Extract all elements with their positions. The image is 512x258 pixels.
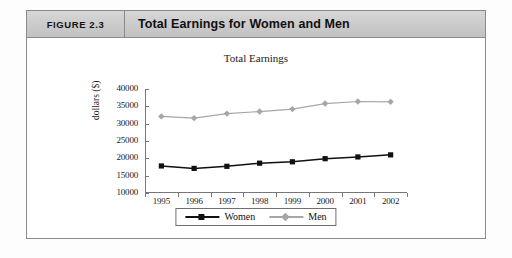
data-series-layer	[145, 89, 407, 193]
chart-legend: Women Men	[175, 208, 336, 226]
figure-header: FIGURE 2.3 Total Earnings for Women and …	[27, 11, 485, 38]
x-tick-mark	[276, 193, 277, 197]
plot-area: 10000150002000025000300003500040000 1995…	[145, 89, 407, 193]
y-tick-label: 15000	[116, 170, 138, 180]
data-point-men[interactable]	[355, 98, 361, 104]
x-tick-label: 1998	[251, 196, 268, 206]
figure-number-label: FIGURE 2.3	[27, 11, 125, 37]
x-tick-mark	[211, 193, 212, 197]
legend-label-women: Women	[224, 211, 255, 222]
figure-frame: FIGURE 2.3 Total Earnings for Women and …	[26, 10, 486, 239]
chart-title: Total Earnings	[27, 52, 485, 64]
legend-marker-men-icon	[269, 212, 303, 222]
legend-label-men: Men	[308, 211, 326, 222]
x-tick-mark	[374, 193, 375, 197]
x-tick-label: 2000	[317, 196, 334, 206]
data-point-women[interactable]	[290, 159, 295, 164]
y-tick-label: 35000	[116, 100, 138, 110]
y-tick-label: 10000	[116, 187, 138, 197]
data-point-men[interactable]	[224, 110, 230, 116]
data-point-men[interactable]	[289, 106, 295, 112]
x-tick-mark	[407, 193, 408, 197]
data-point-women[interactable]	[159, 163, 164, 168]
x-tick-mark	[145, 193, 146, 197]
data-point-men[interactable]	[387, 99, 393, 105]
data-point-men[interactable]	[191, 115, 197, 121]
figure-caption: Total Earnings for Women and Men	[125, 17, 350, 31]
y-tick-label: 30000	[116, 118, 138, 128]
y-tick-label: 25000	[116, 135, 138, 145]
legend-item-women[interactable]: Women	[185, 211, 255, 222]
data-point-women[interactable]	[224, 164, 229, 169]
legend-item-men[interactable]: Men	[269, 211, 326, 222]
y-axis-label: dollars ($)	[91, 81, 101, 120]
x-tick-mark	[309, 193, 310, 197]
y-tick-label: 20000	[116, 152, 138, 162]
figure-page: FIGURE 2.3 Total Earnings for Women and …	[0, 0, 512, 258]
legend-marker-women-icon	[185, 212, 219, 222]
y-tick-label: 40000	[116, 83, 138, 93]
data-point-women[interactable]	[192, 166, 197, 171]
data-point-women[interactable]	[388, 152, 393, 157]
data-point-men[interactable]	[322, 100, 328, 106]
x-tick-mark	[178, 193, 179, 197]
data-point-men[interactable]	[256, 108, 262, 114]
x-tick-label: 1995	[153, 196, 170, 206]
x-tick-label: 2002	[382, 196, 399, 206]
x-tick-label: 1996	[186, 196, 203, 206]
data-point-women[interactable]	[257, 161, 262, 166]
series-line-men	[161, 101, 390, 118]
data-point-men[interactable]	[158, 113, 164, 119]
data-point-women[interactable]	[355, 154, 360, 159]
data-point-women[interactable]	[323, 156, 328, 161]
x-tick-mark	[342, 193, 343, 197]
x-tick-label: 2001	[349, 196, 366, 206]
chart-container: Total Earnings dollars ($) 1000015000200…	[27, 38, 485, 239]
x-tick-label: 1999	[284, 196, 301, 206]
x-tick-label: 1997	[218, 196, 235, 206]
x-tick-mark	[243, 193, 244, 197]
